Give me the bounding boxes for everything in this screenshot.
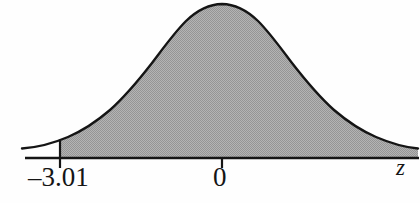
x-axis-tick-label-zero: 0 — [213, 164, 227, 191]
normal-curve-figure: –3.01 0 z — [0, 0, 420, 203]
x-axis-name-label: z — [396, 156, 405, 179]
shaded-area — [22, 4, 418, 158]
x-axis-tick-label-neg301: –3.01 — [28, 164, 89, 191]
